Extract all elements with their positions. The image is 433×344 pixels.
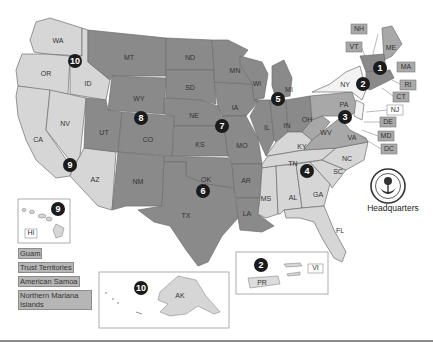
- svg-text:AZ: AZ: [91, 176, 101, 183]
- svg-text:MO: MO: [236, 142, 248, 149]
- svg-text:WI: WI: [253, 80, 262, 87]
- svg-text:WV: WV: [320, 129, 332, 136]
- headquarters-label[interactable]: Headquarters: [358, 169, 428, 213]
- hawaii-inset: 9 HI: [18, 199, 70, 243]
- svg-text:ID: ID: [85, 80, 92, 87]
- territory-northern-mariana-islands[interactable]: Northern Mariana Islands: [18, 290, 92, 310]
- region-marker-2-caribbean[interactable]: 2: [254, 258, 268, 272]
- region-marker-6[interactable]: 6: [196, 184, 210, 198]
- svg-text:10: 10: [136, 283, 146, 293]
- svg-text:2: 2: [360, 79, 365, 89]
- region-marker-1[interactable]: 1: [373, 61, 387, 75]
- svg-text:SC: SC: [333, 168, 343, 175]
- svg-text:MT: MT: [124, 54, 135, 61]
- svg-text:1: 1: [377, 63, 382, 73]
- svg-text:NE: NE: [189, 112, 199, 119]
- svg-text:RI: RI: [405, 81, 412, 88]
- svg-text:AK: AK: [175, 292, 185, 299]
- svg-text:TN: TN: [288, 160, 297, 167]
- svg-text:FL: FL: [336, 227, 344, 234]
- svg-text:8: 8: [138, 113, 143, 123]
- region-marker-4[interactable]: 4: [300, 164, 314, 178]
- territory-american-samoa[interactable]: American Samoa: [18, 276, 80, 287]
- svg-text:KS: KS: [195, 141, 205, 148]
- region-marker-10-alaska[interactable]: 10: [134, 281, 148, 295]
- svg-text:OK: OK: [201, 176, 211, 183]
- svg-text:HI: HI: [28, 229, 35, 236]
- svg-text:OH: OH: [302, 116, 313, 123]
- svg-text:DC: DC: [384, 145, 394, 152]
- svg-text:ME: ME: [386, 44, 397, 51]
- svg-text:GA: GA: [313, 191, 323, 198]
- svg-text:IL: IL: [264, 124, 270, 131]
- region-marker-5[interactable]: 5: [271, 92, 285, 106]
- svg-text:KY: KY: [297, 143, 307, 150]
- alaska-inset: 10 AK: [99, 272, 229, 328]
- svg-text:AR: AR: [241, 177, 251, 184]
- svg-text:9: 9: [55, 204, 60, 214]
- svg-text:7: 7: [219, 121, 224, 131]
- svg-text:VA: VA: [348, 134, 357, 141]
- svg-text:PA: PA: [340, 101, 349, 108]
- svg-text:NC: NC: [342, 155, 352, 162]
- svg-text:MD: MD: [381, 132, 392, 139]
- svg-text:SD: SD: [185, 84, 195, 91]
- svg-text:3: 3: [342, 112, 347, 122]
- svg-text:4: 4: [304, 166, 309, 176]
- state-nj[interactable]: [354, 100, 364, 120]
- svg-text:NJ: NJ: [391, 106, 400, 113]
- svg-text:NY: NY: [340, 81, 350, 88]
- svg-text:DE: DE: [383, 118, 393, 125]
- svg-text:UT: UT: [99, 129, 109, 136]
- svg-text:TX: TX: [182, 212, 191, 219]
- svg-text:WY: WY: [133, 95, 145, 102]
- svg-text:LA: LA: [243, 210, 252, 217]
- region-marker-8[interactable]: 8: [134, 111, 148, 125]
- svg-text:MN: MN: [230, 67, 241, 74]
- svg-text:VI: VI: [312, 264, 319, 271]
- svg-text:VT: VT: [350, 43, 360, 50]
- svg-text:OR: OR: [41, 70, 52, 77]
- bottom-divider: [0, 340, 433, 342]
- territory-guam[interactable]: Guam: [18, 248, 42, 259]
- svg-text:10: 10: [70, 56, 80, 66]
- svg-text:NH: NH: [354, 25, 364, 32]
- svg-text:ND: ND: [185, 54, 195, 61]
- svg-text:AL: AL: [289, 194, 298, 201]
- region-marker-2[interactable]: 2: [356, 77, 370, 91]
- svg-text:6: 6: [200, 186, 205, 196]
- region-marker-10[interactable]: 10: [68, 54, 82, 68]
- svg-text:WA: WA: [52, 37, 63, 44]
- region-marker-7[interactable]: 7: [215, 119, 229, 133]
- svg-text:PR: PR: [257, 279, 267, 286]
- caribbean-inset: 2 PR VI: [236, 252, 328, 294]
- region-marker-9[interactable]: 9: [63, 158, 77, 172]
- svg-text:MI: MI: [285, 86, 293, 93]
- svg-text:NV: NV: [60, 120, 70, 127]
- svg-text:IN: IN: [284, 122, 291, 129]
- svg-text:IA: IA: [232, 104, 239, 111]
- region-marker-9-hawaii[interactable]: 9: [51, 202, 65, 216]
- headquarters-text: Headquarters: [358, 203, 428, 213]
- territory-trust-territories[interactable]: Trust Territories: [18, 262, 74, 273]
- svg-text:9: 9: [67, 160, 72, 170]
- svg-text:2: 2: [258, 260, 263, 270]
- svg-text:CO: CO: [143, 136, 154, 143]
- region-marker-3[interactable]: 3: [338, 110, 352, 124]
- svg-text:CA: CA: [33, 136, 43, 143]
- svg-text:CT: CT: [396, 93, 406, 100]
- svg-text:MS: MS: [261, 195, 272, 202]
- svg-text:MA: MA: [401, 63, 412, 70]
- state-ia[interactable]: [214, 82, 258, 116]
- svg-text:NM: NM: [133, 178, 144, 185]
- svg-text:5: 5: [275, 94, 280, 104]
